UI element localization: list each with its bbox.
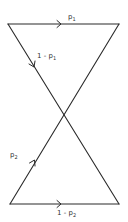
top-edge-label: p1 xyxy=(68,13,76,22)
bottom-diagonal-label: p2 xyxy=(10,151,18,160)
top-diagonal-label: 1 - p1 xyxy=(37,52,56,61)
bottom-edge-label: 1 - p2 xyxy=(57,209,76,218)
bowtie-diagram: p1 1 - p1 p2 1 - p2 xyxy=(0,0,128,222)
